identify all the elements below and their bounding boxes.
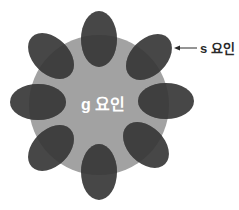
s-factor-arrow bbox=[174, 46, 197, 51]
s-factor-label: s 요인 bbox=[200, 41, 235, 56]
g-factor-diagram: g 요인 s 요인 bbox=[0, 0, 239, 210]
arrow-head-icon bbox=[174, 46, 180, 51]
g-factor-label: g 요인 bbox=[81, 96, 125, 113]
